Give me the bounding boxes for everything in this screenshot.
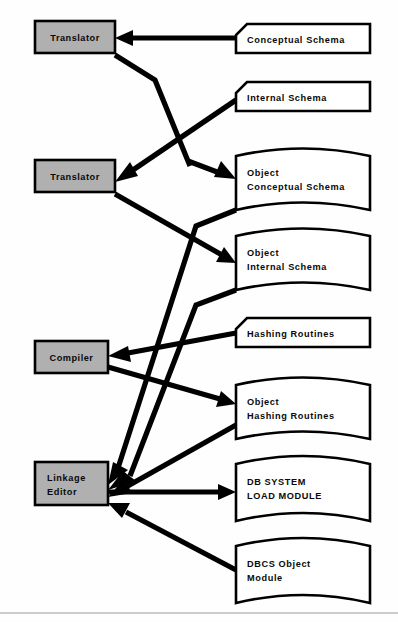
tape-shape xyxy=(236,456,370,521)
tape-shape xyxy=(236,229,370,291)
card-label: Internal Schema xyxy=(247,93,327,103)
tape-label-line2: Conceptual Schema xyxy=(247,182,345,192)
flow-translator-mid-to-object-internal-schema xyxy=(115,194,236,263)
tape-label-line1: Object xyxy=(247,397,279,407)
tape-label-line2: Internal Schema xyxy=(247,262,327,272)
card-label: Hashing Routines xyxy=(247,329,335,339)
tape-label-line2: LOAD MODULE xyxy=(247,491,322,501)
tape-label-line2: Hashing Routines xyxy=(247,411,335,421)
flow-translator-top-to-object-conceptual-schema xyxy=(115,55,236,179)
node-translator-top[interactable]: Translator xyxy=(35,21,115,53)
arrow-head-icon xyxy=(108,503,130,518)
node-conceptual-schema[interactable]: Conceptual Schema xyxy=(236,24,370,53)
node-dbcs-object-module[interactable]: DBCS Object Module xyxy=(236,538,370,603)
node-object-hashing-routines[interactable]: Object Hashing Routines xyxy=(236,378,370,440)
tape-label-line1: DBCS Object xyxy=(247,559,311,569)
process-label: Translator xyxy=(50,172,99,182)
flow-line xyxy=(118,210,236,468)
flow-hashing-routines-to-compiler xyxy=(108,333,236,362)
process-label: Compiler xyxy=(50,353,94,363)
process-label-line2: Editor xyxy=(47,487,77,497)
dataflow-diagram: Translator Translator Compiler Linkage E… xyxy=(0,0,398,622)
node-object-conceptual-schema[interactable]: Object Conceptual Schema xyxy=(236,149,370,211)
process-box xyxy=(35,462,108,505)
tape-label-line1: DB SYSTEM xyxy=(247,477,306,487)
diagram-canvas: Translator Translator Compiler Linkage E… xyxy=(0,0,398,622)
flow-line xyxy=(126,425,236,487)
node-hashing-routines[interactable]: Hashing Routines xyxy=(236,318,370,347)
tape-label-line1: Object xyxy=(247,248,279,258)
arrow-head-icon xyxy=(216,391,236,407)
tape-label-line2: Module xyxy=(247,573,283,583)
arrow-head-icon xyxy=(218,484,236,500)
tape-shape xyxy=(236,378,370,440)
flow-line xyxy=(126,512,236,570)
flow-dbcs-object-module-to-linkage-editor xyxy=(108,503,236,570)
node-translator-mid[interactable]: Translator xyxy=(35,160,115,192)
arrow-head-icon xyxy=(115,162,138,182)
flow-conceptual-schema-to-translator-top xyxy=(115,30,236,46)
node-linkage-editor[interactable]: Linkage Editor xyxy=(35,462,108,505)
flow-line xyxy=(115,55,190,166)
tape-shape xyxy=(236,149,370,211)
node-object-internal-schema[interactable]: Object Internal Schema xyxy=(236,229,370,291)
flow-line xyxy=(130,100,236,172)
node-db-system-load-module[interactable]: DB SYSTEM LOAD MODULE xyxy=(236,456,370,521)
card-label: Conceptual Schema xyxy=(247,35,345,45)
arrow-head-icon xyxy=(115,30,133,46)
node-internal-schema[interactable]: Internal Schema xyxy=(236,82,370,111)
arrow-head-icon xyxy=(108,346,131,362)
process-label: Translator xyxy=(50,33,99,43)
process-label-line1: Linkage xyxy=(47,473,86,483)
tape-shape xyxy=(236,538,370,603)
tape-label-line1: Object xyxy=(247,168,279,178)
node-compiler[interactable]: Compiler xyxy=(35,341,108,373)
